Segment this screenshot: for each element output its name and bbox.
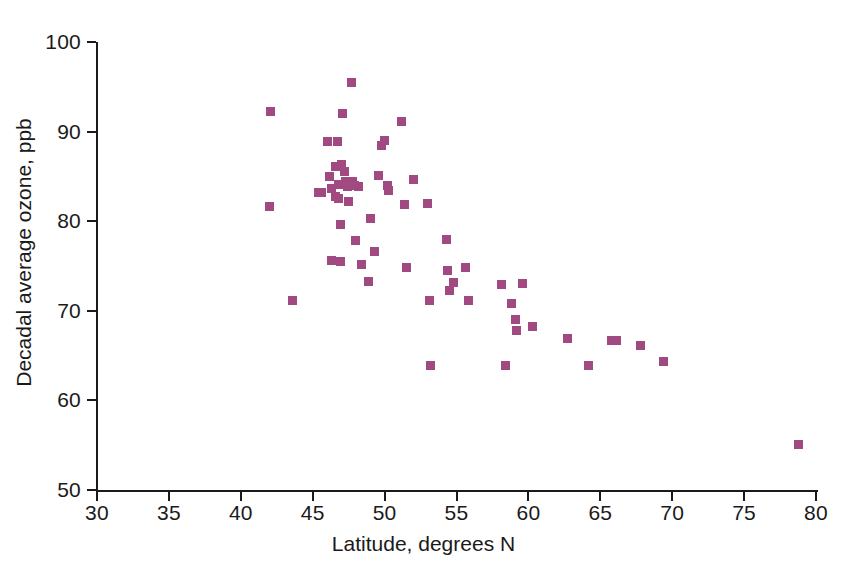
data-point: [364, 277, 373, 286]
data-point: [288, 296, 297, 305]
x-axis-tick: [312, 492, 314, 501]
data-point: [512, 326, 521, 335]
data-point: [354, 182, 363, 191]
data-point: [497, 280, 506, 289]
data-point: [423, 199, 432, 208]
x-axis-tick-label: 30: [85, 501, 109, 525]
y-axis-tick: [87, 489, 96, 491]
x-axis-tick: [168, 492, 170, 501]
data-point: [397, 117, 406, 126]
plot-area: [97, 42, 816, 490]
data-point: [317, 188, 326, 197]
y-axis-title: Decadal average ozone, ppb: [7, 0, 41, 540]
x-axis-tick: [96, 492, 98, 501]
data-point: [334, 194, 343, 203]
data-point: [347, 78, 356, 87]
x-axis-tick-label: 80: [804, 501, 828, 525]
y-axis-tick: [87, 131, 96, 133]
data-point: [409, 175, 418, 184]
data-point: [402, 263, 411, 272]
data-point: [612, 336, 621, 345]
y-axis-tick-label: 90: [57, 120, 81, 144]
x-axis-tick: [384, 492, 386, 501]
y-axis-tick-label: 50: [57, 478, 81, 502]
data-point: [366, 214, 375, 223]
data-point: [518, 279, 527, 288]
data-point: [659, 357, 668, 366]
x-axis-tick-label: 65: [588, 501, 612, 525]
data-point: [323, 137, 332, 146]
x-axis-tick: [815, 492, 817, 501]
data-point: [400, 200, 409, 209]
x-axis-title: Latitude, degrees N: [0, 532, 847, 556]
data-point: [344, 197, 353, 206]
x-axis-tick: [599, 492, 601, 501]
data-point: [507, 299, 516, 308]
data-point: [357, 260, 366, 269]
data-point: [338, 109, 347, 118]
x-axis-tick: [527, 492, 529, 501]
x-axis-tick-label: 35: [157, 501, 181, 525]
x-axis-tick: [671, 492, 673, 501]
data-point: [636, 341, 645, 350]
data-point: [336, 257, 345, 266]
data-point: [370, 247, 379, 256]
data-point: [380, 136, 389, 145]
y-axis-tick: [87, 310, 96, 312]
data-point: [340, 167, 349, 176]
y-axis-tick-label: 100: [45, 30, 81, 54]
data-point: [336, 220, 345, 229]
data-point: [511, 315, 520, 324]
data-point: [426, 361, 435, 370]
x-axis-tick-label: 40: [229, 501, 253, 525]
data-point: [584, 361, 593, 370]
x-axis-tick-label: 70: [660, 501, 684, 525]
data-point: [563, 334, 572, 343]
x-axis-tick: [456, 492, 458, 501]
y-axis-line: [96, 42, 98, 492]
data-point: [425, 296, 434, 305]
data-point: [374, 171, 383, 180]
x-axis-tick: [240, 492, 242, 501]
scatter-chart-figure: 5060708090100 3035404550556065707580 Lat…: [0, 0, 847, 575]
data-point: [384, 186, 393, 195]
x-axis-tick-label: 55: [445, 501, 469, 525]
data-point: [528, 322, 537, 331]
data-point: [449, 278, 458, 287]
x-axis-tick-label: 50: [373, 501, 397, 525]
data-point: [266, 107, 275, 116]
y-axis-tick-label: 60: [57, 388, 81, 412]
y-axis-tick-label: 70: [57, 299, 81, 323]
data-point: [265, 202, 274, 211]
y-axis-tick: [87, 399, 96, 401]
data-point: [442, 235, 451, 244]
data-point: [501, 361, 510, 370]
data-point: [794, 440, 803, 449]
data-point: [461, 263, 470, 272]
y-axis-tick-label: 80: [57, 209, 81, 233]
x-axis-tick-label: 60: [517, 501, 541, 525]
y-axis-tick: [87, 220, 96, 222]
data-point: [445, 286, 454, 295]
data-point: [333, 137, 342, 146]
x-axis-tick-label: 45: [301, 501, 325, 525]
x-axis-tick-label: 75: [732, 501, 756, 525]
data-point: [443, 266, 452, 275]
x-axis-tick: [743, 492, 745, 501]
y-axis-tick: [87, 41, 96, 43]
data-point: [351, 236, 360, 245]
data-point: [464, 296, 473, 305]
